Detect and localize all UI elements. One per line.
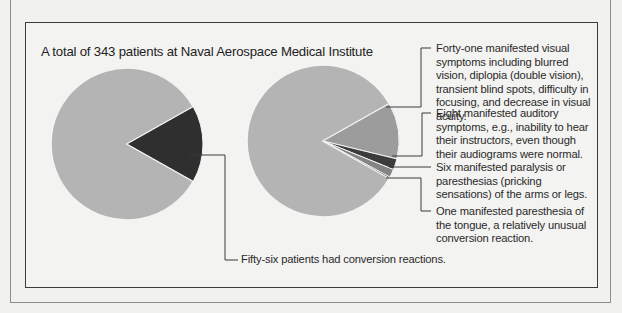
leader-line-tongue	[386, 178, 431, 211]
note-auditory: Eight manifested auditory symptoms, e.g.…	[436, 107, 596, 161]
leader-line-visual	[386, 48, 431, 107]
note-paralysis: Six manifested paralysis or paresthesias…	[436, 161, 596, 202]
left-pie-chart	[51, 68, 203, 220]
right-pie-chart	[247, 65, 399, 217]
note-conversion: Fifty-six patients had conversion reacti…	[241, 253, 446, 265]
note-tongue: One manifested paresthesia of the tongue…	[436, 205, 596, 246]
